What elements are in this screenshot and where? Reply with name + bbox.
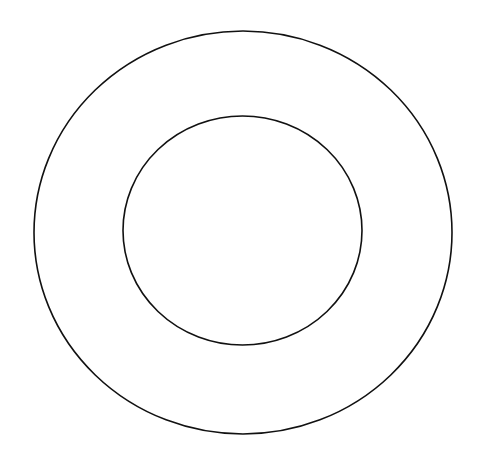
outer-ellipse bbox=[34, 31, 452, 434]
concentric-ellipses-diagram bbox=[0, 0, 478, 463]
inner-ellipse bbox=[123, 116, 362, 345]
